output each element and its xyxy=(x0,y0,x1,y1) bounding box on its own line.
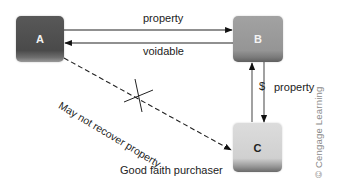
edge-label-b-to-a: voidable xyxy=(143,45,184,57)
edge-label-a-to-b: property xyxy=(143,12,183,24)
copyright-notice: © Cengage Learning xyxy=(313,87,324,178)
arrow-a-to-c-dashed xyxy=(64,58,231,150)
node-c-caption: Good faith purchaser xyxy=(120,164,223,176)
cross-out-icon xyxy=(124,79,153,112)
edge-label-b-to-c: property xyxy=(274,81,314,93)
node-a: A xyxy=(16,16,64,62)
node-c: C xyxy=(233,123,282,172)
node-c-label: C xyxy=(254,142,262,154)
node-a-label: A xyxy=(36,33,44,45)
node-b-label: B xyxy=(254,33,262,45)
edge-label-c-to-b: $ xyxy=(259,80,265,92)
node-b: B xyxy=(233,16,283,62)
